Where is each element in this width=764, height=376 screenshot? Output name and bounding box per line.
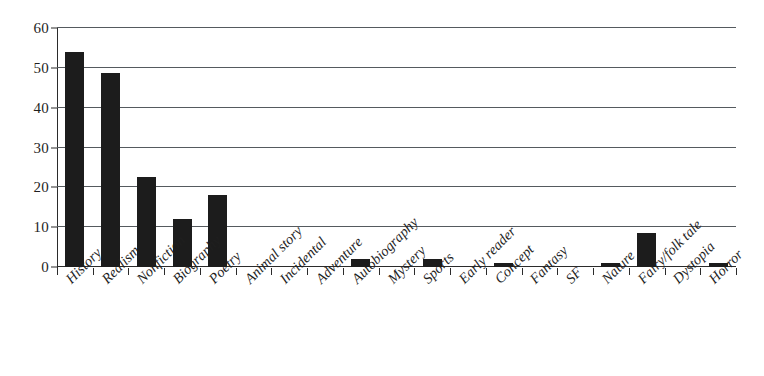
x-tick-mark <box>379 268 380 275</box>
x-tick-mark <box>486 268 487 275</box>
x-tick-mark <box>128 268 129 275</box>
x-tick-mark <box>200 268 201 275</box>
x-tick-mark <box>307 268 308 275</box>
x-axis-tick-labels: HistoryRealismNonfictionBiographyPoetryA… <box>0 276 764 376</box>
x-tick-mark <box>593 268 594 275</box>
bar <box>101 73 120 267</box>
y-tick-label-30: 30 <box>34 140 49 155</box>
x-tick-mark <box>557 268 558 275</box>
y-tick-label-10: 10 <box>34 220 49 235</box>
x-tick-mark <box>629 268 630 275</box>
y-tick-label-40: 40 <box>34 100 49 115</box>
x-tick-mark <box>736 268 737 275</box>
x-tick-mark <box>665 268 666 275</box>
y-tick-label-50: 50 <box>34 60 49 75</box>
x-tick-mark <box>57 268 58 275</box>
bar <box>65 52 84 267</box>
y-tick-label-20: 20 <box>34 180 49 195</box>
x-tick-mark <box>522 268 523 275</box>
x-tick-mark <box>271 268 272 275</box>
x-tick-mark <box>450 268 451 275</box>
bar-chart: 0102030405060 HistoryRealismNonfictionBi… <box>0 0 764 376</box>
x-tick-mark <box>700 268 701 275</box>
x-tick-mark <box>343 268 344 275</box>
x-tick-mark <box>414 268 415 275</box>
y-tick-label-0: 0 <box>41 260 49 275</box>
y-tick-label-60: 60 <box>34 21 49 36</box>
x-tick-mark <box>236 268 237 275</box>
x-tick-mark <box>93 268 94 275</box>
x-tick-mark <box>164 268 165 275</box>
